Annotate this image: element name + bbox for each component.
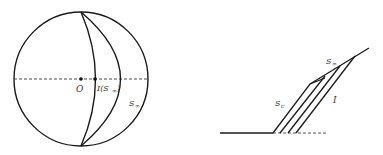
label-o: O: [76, 84, 84, 94]
label-i-main: I(S: [96, 84, 109, 93]
right-panel: S ∞ S c I: [220, 48, 369, 133]
left-panel: O I(S ∞ ) S ∞: [14, 12, 148, 146]
label-s-c-sub: c: [281, 102, 285, 109]
label-s-infinity-right-sub: ∞: [332, 60, 337, 67]
label-i-right: I: [332, 95, 337, 105]
figure-canvas: O I(S ∞ ) S ∞ S ∞ S c I: [0, 0, 383, 155]
slope-line-4: [296, 56, 355, 133]
label-i-close: ): [116, 84, 120, 93]
point-i: [93, 77, 97, 81]
point-o: [79, 77, 83, 81]
label-s-infinity-sub: ∞: [135, 102, 140, 109]
